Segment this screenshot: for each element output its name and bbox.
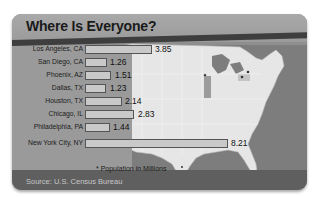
bar-label: Philadelphia, PA bbox=[34, 123, 83, 130]
bar-value: 1.26 bbox=[110, 57, 127, 67]
bar bbox=[85, 110, 134, 119]
bar-row: Philadelphia, PA 1.44 bbox=[12, 122, 307, 133]
bar bbox=[85, 123, 110, 132]
chart-title: Where Is Everyone? bbox=[26, 18, 156, 34]
bar-value: 1.44 bbox=[113, 122, 130, 132]
bar bbox=[85, 45, 152, 54]
bar bbox=[85, 97, 122, 106]
source-caption: Source: U.S. Census Bureau bbox=[26, 177, 122, 186]
bar-row: Chicago, IL 2.83 bbox=[12, 109, 307, 120]
bar-label: New York City, NY bbox=[28, 139, 83, 146]
bar-value: 2.83 bbox=[138, 109, 155, 119]
bar-label: Los Angeles, CA bbox=[33, 45, 83, 52]
bar bbox=[85, 139, 228, 148]
chart-card: Where Is Everyone? Los Angeles, CA 3.85 … bbox=[12, 14, 307, 190]
bar-value: 1.23 bbox=[110, 83, 127, 93]
bar-value: 3.85 bbox=[155, 44, 172, 54]
units-note: * Population in Millions bbox=[96, 165, 166, 172]
bar-label: San Diego, CA bbox=[38, 58, 83, 65]
bar bbox=[85, 71, 111, 80]
bar-row: Dallas, TX 1.23 bbox=[12, 83, 307, 94]
bar-row: San Diego, CA 1.26 bbox=[12, 57, 307, 68]
bar-label: Houston, TX bbox=[45, 97, 83, 104]
bar-label: Chicago, IL bbox=[49, 110, 83, 117]
bar-label: Phoenix, AZ bbox=[46, 71, 83, 78]
bar-value: 2.14 bbox=[125, 96, 142, 106]
bar-row: Houston, TX 2.14 bbox=[12, 96, 307, 107]
bar bbox=[85, 58, 107, 67]
bar-row: Phoenix, AZ 1.51 bbox=[12, 70, 307, 81]
bar-value: 8.21 bbox=[231, 138, 248, 148]
bar-row: New York City, NY 8.21 bbox=[12, 138, 307, 149]
bar-row: Los Angeles, CA 3.85 bbox=[12, 44, 307, 55]
bar bbox=[85, 84, 106, 93]
bar-value: 1.51 bbox=[115, 70, 132, 80]
bar-label: Dallas, TX bbox=[52, 84, 83, 91]
